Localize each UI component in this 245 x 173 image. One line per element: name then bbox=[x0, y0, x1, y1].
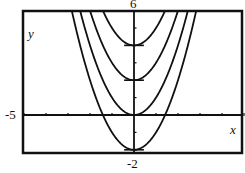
graph-window bbox=[0, 0, 245, 173]
axes bbox=[23, 11, 244, 153]
viewing-window-frame bbox=[23, 11, 242, 153]
frame-border bbox=[23, 11, 242, 153]
y-axis-label: y bbox=[28, 27, 34, 40]
ymax-label: 6 bbox=[130, 0, 137, 10]
x-axis-label: x bbox=[230, 123, 236, 136]
xmin-label: -5 bbox=[5, 108, 16, 121]
ymin-label: -2 bbox=[127, 157, 138, 170]
